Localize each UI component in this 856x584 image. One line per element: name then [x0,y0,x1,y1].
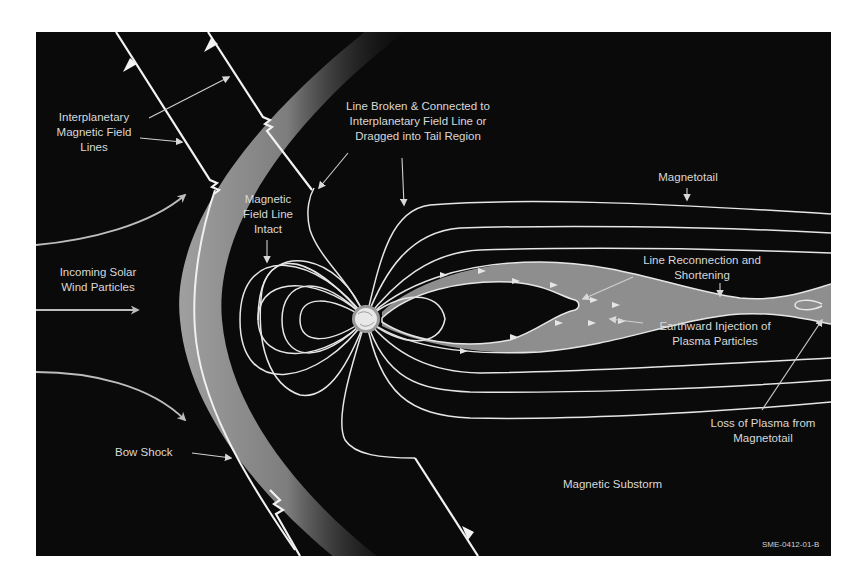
label-reconnection: Line Reconnection and Shortening [627,253,777,283]
label-bow-shock: Bow Shock [115,445,173,460]
solar-wind-arrow-3 [36,372,185,420]
label-plasma-loss: Loss of Plasma from Magnetotail [700,416,826,446]
figure-code: SME-0412-01-B [762,540,819,549]
solar-wind-arrow-1 [36,195,185,245]
earth-icon [352,305,380,333]
magnetosphere-diagram: Interplanetary Magnetic Field Lines Line… [0,0,856,584]
label-imf: Interplanetary Magnetic Field Lines [48,110,140,155]
dragged-line [415,458,478,556]
label-solar-wind: Incoming Solar Wind Particles [52,265,144,295]
label-magnetic-substorm: Magnetic Substorm [563,477,662,492]
label-field-line-intact: Magnetic Field Line Intact [236,192,300,237]
label-injection: Earthward Injection of Plasma Particles [645,319,785,349]
label-line-broken: Line Broken & Connected to Interplanetar… [333,99,503,144]
label-magnetotail: Magnetotail [650,170,726,185]
imf-arrow-2 [204,38,218,52]
